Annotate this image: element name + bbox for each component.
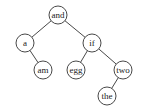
tree-node-egg: egg — [67, 61, 85, 79]
tree-node-a: a — [16, 34, 34, 52]
tree-node-the: the — [98, 87, 116, 105]
tree-node-am: am — [34, 61, 52, 79]
node-label: two — [116, 65, 130, 75]
tree-edge-if-two — [99, 49, 116, 64]
tree-edge-two-the — [112, 78, 119, 89]
node-label: am — [38, 65, 49, 75]
node-label: the — [102, 91, 113, 101]
tree-edge-if-egg — [81, 51, 88, 63]
node-label: if — [89, 38, 95, 48]
tree-node-if: if — [83, 34, 101, 52]
node-label: a — [23, 38, 27, 48]
tree-edge-and-if — [65, 21, 85, 38]
node-label: egg — [70, 65, 83, 75]
tree-node-two: two — [114, 61, 132, 79]
tree-node-and: and — [49, 6, 67, 24]
tree-edge-a-am — [30, 50, 38, 62]
binary-tree-diagram: and a am if egg two — [0, 0, 144, 111]
node-label: and — [52, 10, 65, 20]
tree-edge-and-a — [32, 21, 51, 37]
